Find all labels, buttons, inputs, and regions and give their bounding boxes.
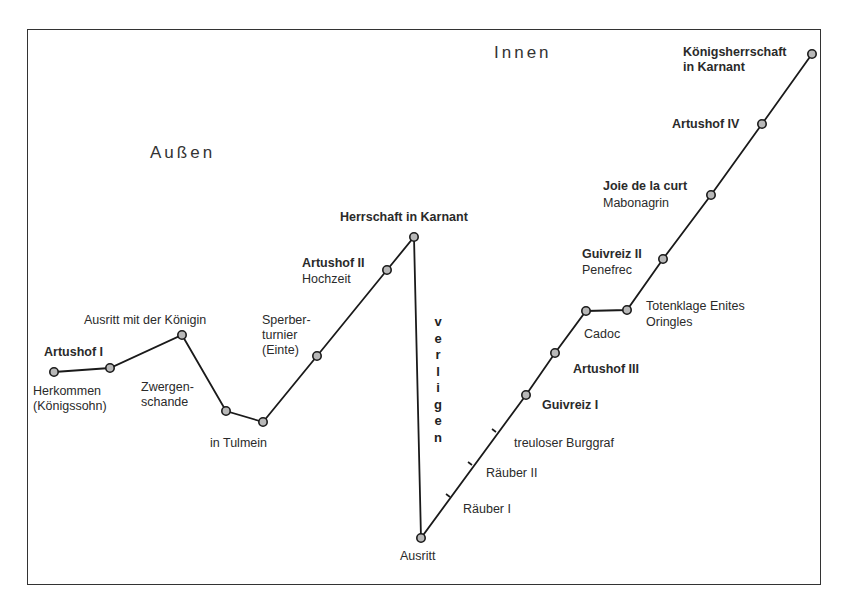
- path-node: [582, 307, 590, 315]
- label-koenigsherrschaft-1: Königsherrschaft: [683, 45, 787, 60]
- vertical-letter: g: [431, 397, 445, 414]
- label-joie-de-la-curt: Joie de la curt: [603, 179, 687, 194]
- path-node: [659, 255, 667, 263]
- path-node: [707, 191, 715, 199]
- label-oringles: Oringles: [646, 315, 693, 330]
- label-sperber-1: Sperber-: [262, 313, 311, 328]
- vertical-letter: e: [431, 413, 445, 430]
- label-hochzeit: Hochzeit: [302, 272, 351, 287]
- label-ausritt: Ausritt: [400, 549, 435, 564]
- tick-mark: [492, 429, 496, 432]
- label-guivreiz-1: Guivreiz I: [542, 398, 598, 413]
- path-node: [551, 349, 559, 357]
- tick-marks: [446, 429, 496, 497]
- label-zwergenschande-1: Zwergen-: [141, 380, 194, 395]
- region-inner-label: Innen: [494, 43, 552, 63]
- path-node: [259, 418, 267, 426]
- label-herkommen: Herkommen: [33, 384, 101, 399]
- vertical-letter: e: [431, 331, 445, 348]
- vertical-letter: n: [431, 430, 445, 447]
- label-sperber-3: (Einte): [262, 343, 299, 358]
- label-guivreiz-2: Guivreiz II: [582, 247, 642, 262]
- path-node: [417, 534, 425, 542]
- path-node: [623, 306, 631, 314]
- vertical-letter: v: [431, 314, 445, 331]
- label-ausritt-koenigin: Ausritt mit der Königin: [84, 313, 206, 328]
- vertical-letter: l: [431, 364, 445, 381]
- path-node: [106, 364, 114, 372]
- vertical-letter: i: [431, 380, 445, 397]
- path-node: [383, 266, 391, 274]
- path-node: [222, 407, 230, 415]
- vertical-letter: r: [431, 347, 445, 364]
- path-node: [313, 352, 321, 360]
- label-artushof-4: Artushof IV: [672, 117, 739, 132]
- label-artushof-2: Artushof II: [302, 256, 365, 271]
- label-cadoc: Cadoc: [584, 327, 620, 342]
- tick-mark: [468, 462, 472, 465]
- label-totenklage: Totenklage Enites: [646, 299, 745, 314]
- path-node: [522, 391, 530, 399]
- path-node: [50, 368, 58, 376]
- label-koenigsherrschaft-2: in Karnant: [683, 60, 745, 75]
- label-koenigssohn: (Königssohn): [33, 399, 107, 414]
- label-tulmein: in Tulmein: [210, 436, 267, 451]
- tick-mark: [446, 494, 450, 497]
- label-herrschaft-karnant: Herrschaft in Karnant: [340, 210, 468, 225]
- region-outer-label: Außen: [150, 143, 215, 163]
- label-penefrec: Penefrec: [582, 263, 632, 278]
- label-sperber-2: turnier: [262, 328, 297, 343]
- label-zwergenschande-2: schande: [141, 395, 188, 410]
- path-node: [808, 50, 816, 58]
- label-mabonagrin: Mabonagrin: [603, 196, 669, 211]
- label-artushof-3: Artushof III: [573, 362, 639, 377]
- verligen-vertical-label: verligen: [431, 314, 445, 446]
- path-node: [758, 120, 766, 128]
- label-treuloser-burggraf: treuloser Burggraf: [514, 436, 614, 451]
- path-node: [178, 331, 186, 339]
- label-raeuber-1: Räuber I: [463, 502, 511, 517]
- label-artushof-1: Artushof I: [44, 345, 103, 360]
- label-raeuber-2: Räuber II: [486, 466, 537, 481]
- path-node: [410, 233, 418, 241]
